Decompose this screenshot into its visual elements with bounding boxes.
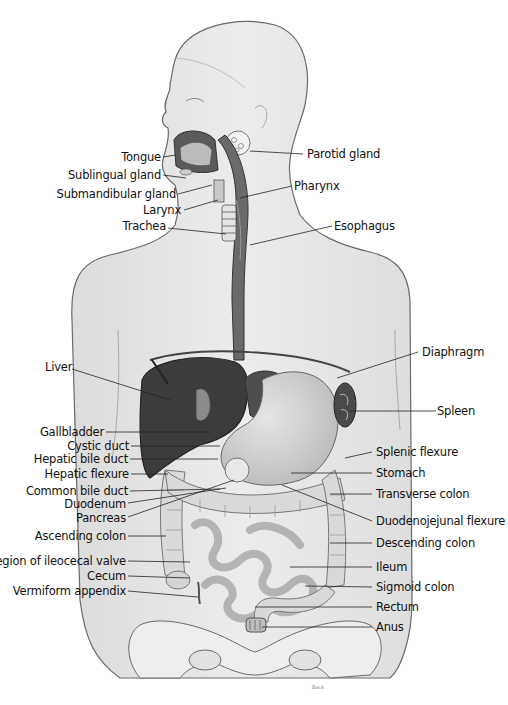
label-pancreas: Pancreas xyxy=(76,511,126,525)
image-credit: Back xyxy=(312,684,324,690)
label-liver: Liver xyxy=(45,360,72,374)
label-rectum: Rectum xyxy=(376,600,419,614)
label-cecum: Cecum xyxy=(87,569,126,583)
label-sigmoid-colon: Sigmoid colon xyxy=(376,580,454,594)
label-duodenum: Duodenum xyxy=(64,497,126,511)
label-splenic-flexure: Splenic flexure xyxy=(376,445,458,459)
label-sublingual-gland: Sublingual gland xyxy=(68,168,161,182)
pancreas-shape xyxy=(225,458,249,482)
label-ascending-colon: Ascending colon xyxy=(35,529,126,543)
label-cystic-duct: Cystic duct xyxy=(67,439,129,453)
label-duodenojejunal-flexure: Duodenojejunal flexure xyxy=(376,514,505,528)
label-tongue: Tongue xyxy=(121,150,161,164)
label-spleen: Spleen xyxy=(437,404,475,418)
label-larynx: Larynx xyxy=(143,203,181,217)
label-hepatic-flexure: Hepatic flexure xyxy=(44,467,129,481)
mouth-region xyxy=(174,131,218,175)
label-stomach: Stomach xyxy=(376,466,425,480)
label-region-of-ileocecal-valve: Region of ileocecal valve xyxy=(0,554,126,568)
label-submandibular-gland: Submandibular gland xyxy=(57,187,176,201)
label-diaphragm: Diaphragm xyxy=(422,345,484,359)
label-descending-colon: Descending colon xyxy=(376,536,475,550)
label-vermiform-appendix: Vermiform appendix xyxy=(13,584,126,598)
digestive-system-diagram: Tongue Sublingual gland Submandibular gl… xyxy=(0,0,508,705)
label-anus: Anus xyxy=(376,620,404,634)
label-pharynx: Pharynx xyxy=(294,179,340,193)
label-parotid-gland: Parotid gland xyxy=(307,147,380,161)
label-gallbladder: Gallbladder xyxy=(40,425,104,439)
label-esophagus: Esophagus xyxy=(334,219,395,233)
label-common-bile-duct: Common bile duct xyxy=(26,484,128,498)
label-ileum: Ileum xyxy=(376,560,407,574)
spleen-shape xyxy=(334,383,356,427)
label-transverse-colon: Transverse colon xyxy=(376,487,469,501)
label-trachea: Trachea xyxy=(123,219,166,233)
rectum-shape xyxy=(246,618,266,632)
gallbladder-shape xyxy=(196,389,210,421)
cecum-shape xyxy=(166,571,190,589)
label-hepatic-bile-duct: Hepatic bile duct xyxy=(34,452,128,466)
